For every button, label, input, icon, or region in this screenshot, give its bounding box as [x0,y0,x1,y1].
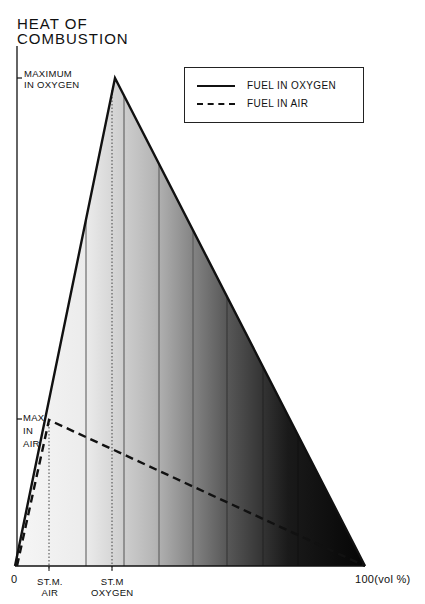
max-air-label-line2: IN [23,424,45,437]
legend-label: FUEL IN OXYGEN [247,80,336,91]
oxygen-triangle-fill [15,78,365,566]
legend: FUEL IN OXYGEN FUEL IN AIR [184,67,364,123]
legend-label: FUEL IN AIR [247,98,308,109]
stm-oxygen-label: ST.M OXYGEN [91,576,133,598]
y-axis-title: HEAT OF COMBUSTION [17,16,129,46]
stm-oxygen-label-line1: ST.M [91,576,133,587]
stm-air-label-line2: AIR [37,587,63,598]
title-line-2: COMBUSTION [17,31,129,46]
stm-air-label-line1: ST.M. [37,576,63,587]
max-air-label: MAX IN AIR [23,411,45,450]
max-oxygen-label: MAXIMUM IN OXYGEN [24,68,80,90]
max-air-label-line1: MAX [23,411,45,424]
x-origin-label: 0 [11,574,17,585]
max-oxygen-label-line2: IN OXYGEN [24,79,80,90]
max-oxygen-label-line1: MAXIMUM [24,68,80,79]
legend-item-oxygen: FUEL IN OXYGEN [197,80,336,91]
solid-line-swatch-icon [197,85,235,87]
title-line-1: HEAT OF [17,16,129,31]
x-end-label: 100(vol %) [355,574,411,585]
dashed-line-swatch-icon [197,103,235,105]
stm-oxygen-label-line2: OXYGEN [91,587,133,598]
stm-air-label: ST.M. AIR [37,576,63,598]
legend-item-air: FUEL IN AIR [197,98,308,109]
max-air-label-line3: AIR [23,437,45,450]
